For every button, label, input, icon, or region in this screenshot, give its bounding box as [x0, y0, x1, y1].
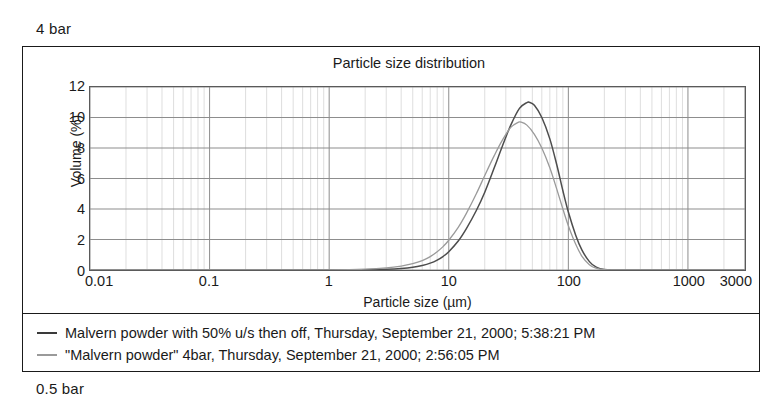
- major-gridlines: [90, 87, 745, 270]
- series-line: [90, 122, 745, 270]
- chart-legend: Malvern powder with 50% u/s then off, Th…: [23, 313, 759, 371]
- legend-item: "Malvern powder" 4bar, Thursday, Septemb…: [35, 344, 759, 366]
- legend-item-label: "Malvern powder" 4bar, Thursday, Septemb…: [65, 347, 500, 363]
- legend-line-swatch-icon: [37, 332, 57, 334]
- legend-item: Malvern powder with 50% u/s then off, Th…: [35, 322, 759, 344]
- x-axis-tick-label: 0.01: [85, 273, 113, 289]
- y-axis-tick-labels: 024681012: [23, 86, 85, 271]
- x-axis-tick-label: 10: [441, 273, 457, 289]
- plot-area: [89, 86, 746, 271]
- legend-item-label: Malvern powder with 50% u/s then off, Th…: [65, 325, 595, 341]
- y-axis-tick-label: 6: [27, 172, 85, 187]
- x-axis-tick-labels: 0.010.111010010003000: [89, 273, 746, 293]
- chart-block: Particle size distribution Volume (%) 02…: [23, 47, 759, 313]
- x-axis-tick-label: 1000: [673, 273, 705, 289]
- caption-above-chart: 4 bar: [36, 20, 71, 37]
- x-axis-tick-label: 100: [557, 273, 581, 289]
- y-axis-tick-label: 10: [27, 110, 85, 125]
- y-axis-tick-label: 0: [27, 264, 85, 279]
- legend-line-swatch-icon: [37, 354, 57, 356]
- x-axis-title: Particle size (µm): [89, 294, 746, 310]
- y-axis-tick-label: 12: [27, 79, 85, 94]
- caption-below-chart: 0.5 bar: [36, 380, 84, 397]
- y-axis-tick-label: 8: [27, 141, 85, 156]
- x-axis-tick-label: 3000: [720, 273, 752, 289]
- chart-report-frame: Particle size distribution Volume (%) 02…: [22, 46, 760, 372]
- y-axis-tick-label: 2: [27, 233, 85, 248]
- y-axis-tick-label: 4: [27, 202, 85, 217]
- x-axis-tick-label: 1: [325, 273, 333, 289]
- series-line: [90, 102, 745, 270]
- chart-title: Particle size distribution: [23, 55, 759, 71]
- data-series-group: [90, 102, 745, 270]
- x-axis-tick-label: 0.1: [199, 273, 219, 289]
- plot-canvas: [90, 87, 745, 270]
